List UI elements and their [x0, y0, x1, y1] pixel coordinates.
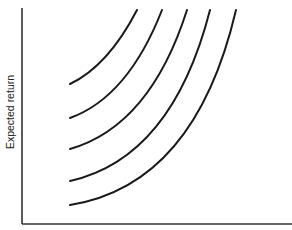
- indifference-curve-3: [70, 10, 187, 149]
- indifference-curve-2: [70, 10, 162, 118]
- y-axis-label: Expected return: [4, 75, 16, 149]
- indifference-curve-5: [70, 10, 236, 205]
- chart-area: [0, 0, 292, 230]
- indifference-curves: [70, 10, 236, 205]
- indifference-curve-4: [70, 10, 210, 181]
